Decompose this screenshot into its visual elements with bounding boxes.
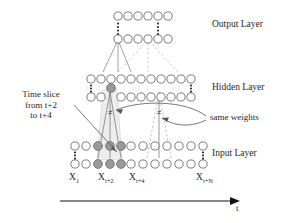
input-layer-nodes — [71, 142, 207, 168]
tick-sub-1: t+2 — [105, 177, 114, 184]
same-weights-annotation: same weights — [210, 113, 259, 123]
input-tick-label-xtn: Xt+N — [196, 172, 213, 184]
weight-marker-right: ≠ — [157, 108, 162, 117]
edges-hidden-to-output-dashed — [118, 40, 178, 72]
hidden-layer-label: Hidden Layer — [212, 82, 265, 92]
time-slice-line-2: from t+2 — [8, 100, 74, 111]
output-layer-nodes — [114, 12, 172, 43]
time-axis-label: t — [236, 204, 239, 214]
tick-sub-3: t+N — [203, 177, 213, 184]
input-layer-label: Input Layer — [212, 148, 257, 158]
output-layer-ellipsis — [117, 23, 159, 36]
tick-sub-0: 1 — [76, 177, 79, 184]
svg-text:≠: ≠ — [157, 108, 162, 117]
output-layer-label: Output Layer — [212, 19, 263, 29]
time-slice-line-3: to t+4 — [8, 110, 74, 121]
svg-text:≠: ≠ — [108, 108, 113, 117]
input-tick-label-xt2: Xt+2 — [98, 172, 114, 184]
weight-marker-left: ≠ — [108, 108, 113, 117]
tdnn-diagram: ≠ ≠ Output Layer Hidden Layer Input Laye… — [0, 0, 295, 223]
input-layer-ellipsis — [74, 152, 204, 160]
input-tick-label-xt4: Xt+4 — [129, 172, 145, 184]
time-slice-annotation: Time slice from t+2 to t+4 — [8, 89, 74, 121]
edges-hidden-to-output-solid — [103, 40, 131, 72]
tick-base-0: X — [69, 172, 76, 182]
input-tick-label-x1: X1 — [69, 172, 79, 184]
hidden-layer-highlighted-node — [107, 84, 116, 93]
time-axis-arrow — [60, 197, 240, 205]
tick-base-3: X — [196, 172, 203, 182]
tick-base-1: X — [98, 172, 105, 182]
time-slice-line-1: Time slice — [8, 89, 74, 100]
tick-base-2: X — [129, 172, 136, 182]
tick-sub-2: t+4 — [136, 177, 145, 184]
hidden-layer-nodes — [87, 75, 195, 101]
